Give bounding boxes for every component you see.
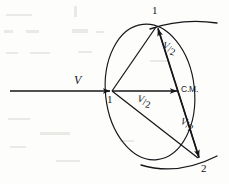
- point-label-top: 1: [152, 5, 158, 16]
- center-of-mass-label: C.M.: [181, 85, 198, 94]
- point-label-start: 1: [107, 94, 113, 105]
- point-label-bottom: 2: [201, 163, 207, 174]
- vertex-to-point1-line: [112, 27, 156, 91]
- physics-vector-diagram: V 1 1 2 C.M. V/2 V/2 V/2: [0, 0, 229, 184]
- incoming-velocity-label: V: [74, 74, 81, 86]
